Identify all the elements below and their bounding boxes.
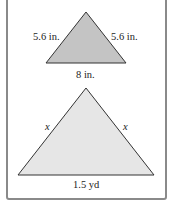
large-right-side-label: x <box>122 121 128 132</box>
large-base-label: 1.5 yd <box>73 179 100 190</box>
triangles-diagram: 5.6 in. 5.6 in. 8 in. x x 1.5 yd <box>0 0 174 210</box>
small-base-label: 8 in. <box>76 69 95 80</box>
small-right-side-label: 5.6 in. <box>111 31 138 42</box>
small-left-side-label: 5.6 in. <box>33 31 60 42</box>
large-triangle <box>18 88 154 175</box>
large-left-side-label: x <box>44 121 50 132</box>
